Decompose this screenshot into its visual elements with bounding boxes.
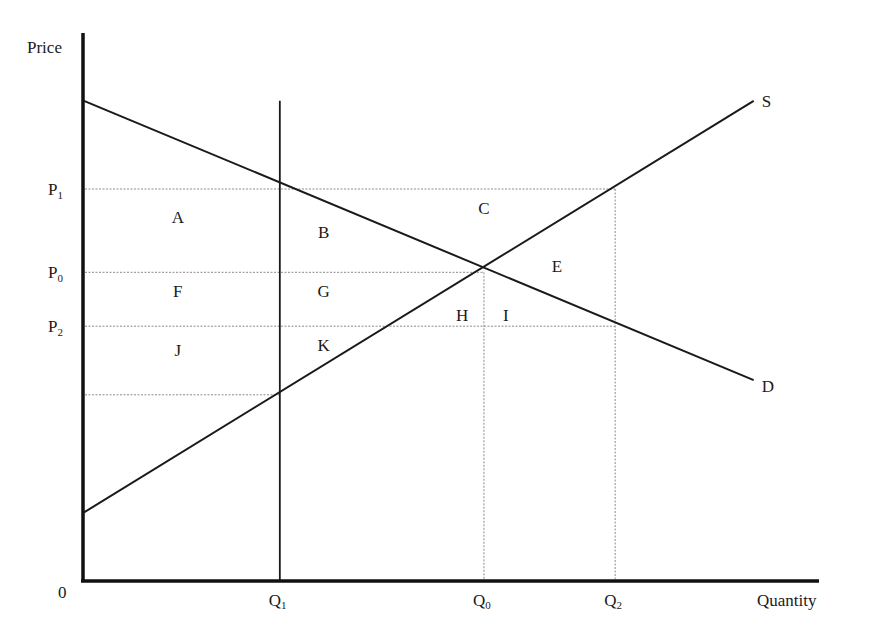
area-label-a: A <box>172 208 185 227</box>
demand-curve-label: D <box>762 377 774 396</box>
price-label-p1: P1 <box>48 180 63 201</box>
supply-curve <box>84 101 754 513</box>
x-axis-label: Quantity <box>757 591 817 610</box>
supply-curve-label: S <box>762 92 771 111</box>
area-label-j: J <box>174 341 181 360</box>
quantity-label-q2: Q2 <box>604 591 622 611</box>
area-label-g: G <box>317 282 329 301</box>
area-label-b: B <box>318 223 329 242</box>
guide-lines <box>85 189 615 579</box>
price-label-p0: P0 <box>48 263 63 284</box>
axes <box>81 33 819 581</box>
demand-curve <box>84 101 754 380</box>
area-label-f: F <box>173 282 182 301</box>
quantity-label-q1: Q1 <box>269 591 287 611</box>
y-axis-label: Price <box>27 38 62 57</box>
price-label-p2: P2 <box>48 317 63 338</box>
diagram-canvas: Price Quantity 0 S D P1P0P2Q1Q0Q2 ABCEFG… <box>0 0 872 638</box>
labels: Price Quantity 0 S D <box>27 38 817 610</box>
quantity-label-q0: Q0 <box>473 591 491 611</box>
tick-labels: P1P0P2Q1Q0Q2 <box>48 180 622 611</box>
curves <box>84 101 754 581</box>
area-label-i: I <box>503 306 509 325</box>
area-label-k: K <box>317 336 330 355</box>
area-label-c: C <box>478 199 489 218</box>
supply-demand-diagram: Price Quantity 0 S D P1P0P2Q1Q0Q2 ABCEFG… <box>0 0 872 638</box>
origin-label: 0 <box>58 583 67 602</box>
area-labels: ABCEFGHIJK <box>172 199 562 360</box>
area-label-e: E <box>552 257 562 276</box>
area-label-h: H <box>456 306 468 325</box>
